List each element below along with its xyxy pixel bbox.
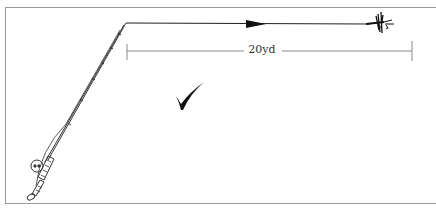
fly-rod	[26, 23, 126, 201]
check-mark-icon	[176, 82, 204, 110]
direction-arrow-icon	[246, 20, 266, 28]
casting-illustration	[0, 0, 436, 208]
fly-icon	[366, 12, 394, 33]
fly-line	[126, 20, 370, 28]
distance-label: 20yd	[244, 43, 280, 57]
